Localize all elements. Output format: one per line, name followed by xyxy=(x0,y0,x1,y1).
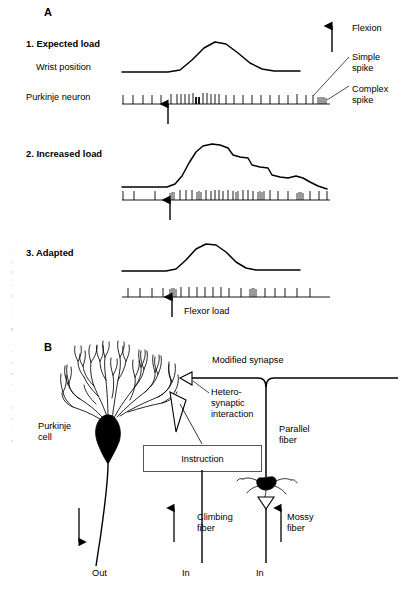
spike-train-expected-load xyxy=(123,93,327,104)
spike-tick xyxy=(123,95,124,104)
spike-tick xyxy=(233,191,234,200)
spike-tick xyxy=(181,94,182,104)
spike-tick xyxy=(238,191,239,200)
leader-line-complex-spike xyxy=(327,86,349,100)
spike-tick xyxy=(128,288,129,297)
spike-tick xyxy=(215,94,216,104)
granule-cell xyxy=(237,477,297,499)
spike-tick xyxy=(234,95,235,104)
spike-tick xyxy=(270,95,271,104)
spike-tick xyxy=(219,94,220,104)
purkinje-axon-output xyxy=(96,464,108,566)
spike-tick xyxy=(172,192,173,200)
spike-tick xyxy=(264,191,265,200)
spike-tick xyxy=(143,95,144,104)
spike-tick xyxy=(250,289,251,297)
spike-tick xyxy=(161,95,162,104)
spike-tick xyxy=(207,93,208,104)
spike-train-increased-load xyxy=(123,190,328,200)
spike-tick xyxy=(318,97,319,104)
spike-tick xyxy=(260,191,261,200)
spike-tick xyxy=(219,190,220,200)
spike-tick xyxy=(297,94,298,104)
spike-tick xyxy=(326,98,327,104)
spike-tick xyxy=(229,288,230,297)
spike-tick xyxy=(201,192,202,200)
spike-tick xyxy=(310,288,311,297)
spike-tick xyxy=(198,97,200,104)
spike-tick xyxy=(254,288,255,297)
spike-tick xyxy=(170,289,171,297)
spike-tick xyxy=(152,288,153,297)
spike-tick xyxy=(279,95,280,104)
spike-tick xyxy=(197,287,198,297)
spike-tick xyxy=(320,97,321,104)
spike-tick xyxy=(213,287,214,297)
spike-tick xyxy=(275,288,276,297)
spike-tick xyxy=(303,193,304,200)
spike-tick xyxy=(174,288,175,297)
purkinje-dendritic-arbor xyxy=(61,341,179,420)
spike-tick xyxy=(253,191,254,200)
spike-tick xyxy=(193,93,194,104)
spike-tick xyxy=(306,95,307,104)
spike-tick xyxy=(256,289,257,297)
spike-tick xyxy=(140,288,141,297)
spike-tick xyxy=(228,190,229,200)
spike-tick xyxy=(252,288,253,297)
spike-tick xyxy=(174,192,175,200)
spike-tick xyxy=(211,94,212,104)
spike-tick xyxy=(301,192,302,200)
spike-tick xyxy=(215,190,216,200)
spike-tick xyxy=(327,191,328,200)
panel-b-graphics xyxy=(61,341,398,566)
spike-tick xyxy=(248,190,249,200)
spike-tick xyxy=(181,287,182,297)
spike-tick xyxy=(176,289,177,297)
spike-tick xyxy=(288,191,289,200)
spike-tick xyxy=(310,191,311,200)
spike-tick xyxy=(297,288,298,297)
spike-tick xyxy=(189,94,190,104)
mossy-fiber-terminal-icon xyxy=(258,497,274,509)
spike-tick xyxy=(192,190,193,200)
spike-tick xyxy=(319,191,320,200)
spike-tick xyxy=(133,95,134,104)
spike-tick xyxy=(223,191,224,200)
spike-tick xyxy=(243,190,244,200)
spike-tick xyxy=(261,95,262,104)
spike-tick xyxy=(324,97,325,104)
spike-tick xyxy=(197,192,198,200)
spike-tick xyxy=(258,192,259,200)
spike-tick xyxy=(185,94,186,104)
spike-tick xyxy=(134,191,135,200)
spike-train-adapted xyxy=(128,287,311,297)
spike-tick xyxy=(186,190,187,200)
spike-tick xyxy=(288,95,289,104)
spike-tick xyxy=(265,288,266,297)
spike-tick xyxy=(195,97,197,104)
spike-tick xyxy=(205,287,206,297)
spike-tick xyxy=(226,95,227,104)
spike-tick xyxy=(262,192,263,200)
leader-line-simple-spike xyxy=(313,57,349,96)
climbing-fiber-terminal-icon xyxy=(170,392,186,432)
spike-tick xyxy=(252,95,253,104)
spike-tick xyxy=(299,192,300,200)
spike-tick xyxy=(243,95,244,104)
spike-tick xyxy=(297,193,298,200)
spike-tick xyxy=(123,191,124,200)
spike-tick xyxy=(171,94,172,104)
spike-tick xyxy=(278,191,279,200)
wrist-trace-increased-load xyxy=(122,144,327,189)
figure-root: ‒)5:)--g--ex--ie-s A 1. Expected load 2.… xyxy=(0,0,401,593)
spike-tick xyxy=(313,95,314,104)
spike-tick xyxy=(206,190,207,200)
purkinje-soma xyxy=(96,415,121,464)
spike-tick xyxy=(211,191,212,200)
spike-tick xyxy=(199,191,200,200)
parallel-fiber-horizontal-left xyxy=(192,378,266,387)
wrist-trace-expected-load xyxy=(122,42,300,72)
spike-tick xyxy=(163,288,164,297)
panel-a-graphics xyxy=(122,26,349,317)
